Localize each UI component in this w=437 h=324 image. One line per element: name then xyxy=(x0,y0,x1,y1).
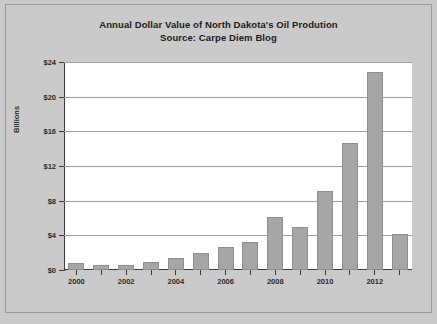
x-tick-label-2006: 2006 xyxy=(213,277,238,289)
x-tick-slot xyxy=(213,270,238,275)
x-tick-label-empty xyxy=(188,277,213,289)
x-tick-mark xyxy=(126,270,127,275)
x-tick-mark xyxy=(349,270,350,275)
bar-slot xyxy=(114,62,139,270)
bar-2000[interactable] xyxy=(68,263,84,270)
x-tick-slot xyxy=(313,270,338,275)
x-tick-label-empty xyxy=(89,277,114,289)
x-tick-label-empty xyxy=(288,277,313,289)
y-axis-ticks: $0$4$8$12$16$20$24 xyxy=(0,0,64,324)
bar-slot xyxy=(337,62,362,270)
x-tick-mark xyxy=(175,270,176,275)
bar-2004[interactable] xyxy=(168,258,184,270)
x-tick-mark xyxy=(76,270,77,275)
x-tick-slot xyxy=(139,270,164,275)
x-tick-mark xyxy=(101,270,102,275)
x-tick-label-2008: 2008 xyxy=(263,277,288,289)
bar-slot xyxy=(139,62,164,270)
x-tick-slot xyxy=(337,270,362,275)
x-tick-label-empty xyxy=(387,277,412,289)
x-tick-slot xyxy=(188,270,213,275)
x-tick-mark xyxy=(275,270,276,275)
x-tick-mark xyxy=(399,270,400,275)
x-tick-slot xyxy=(238,270,263,275)
bar-slot xyxy=(263,62,288,270)
bar-slot xyxy=(288,62,313,270)
x-tick-label-2012: 2012 xyxy=(362,277,387,289)
bar-slot xyxy=(362,62,387,270)
x-axis-tick-marks xyxy=(64,270,412,275)
bar-2009[interactable] xyxy=(292,227,308,270)
bar-slot xyxy=(313,62,338,270)
bar-slot xyxy=(163,62,188,270)
bar-2012[interactable] xyxy=(367,72,383,270)
x-tick-label-2010: 2010 xyxy=(313,277,338,289)
x-tick-mark xyxy=(151,270,152,275)
x-tick-slot xyxy=(64,270,89,275)
y-tick-label: $4 xyxy=(48,231,56,240)
bar-2006[interactable] xyxy=(218,247,234,270)
x-tick-slot xyxy=(362,270,387,275)
x-tick-mark xyxy=(374,270,375,275)
bar-2008[interactable] xyxy=(267,217,283,270)
x-tick-mark xyxy=(250,270,251,275)
x-tick-slot xyxy=(114,270,139,275)
x-tick-slot xyxy=(89,270,114,275)
bar-slot xyxy=(238,62,263,270)
chart-subtitle: Source: Carpe Diem Blog xyxy=(0,31,437,44)
x-tick-label-2004: 2004 xyxy=(163,277,188,289)
plot-area-wrapper xyxy=(64,62,412,270)
bar-series xyxy=(64,62,412,270)
bar-2003[interactable] xyxy=(143,262,159,270)
bar-slot xyxy=(64,62,89,270)
x-tick-slot xyxy=(387,270,412,275)
x-tick-slot xyxy=(163,270,188,275)
y-tick-label: $8 xyxy=(48,196,56,205)
y-tick-label: $24 xyxy=(43,58,56,67)
x-tick-slot xyxy=(288,270,313,275)
y-tick-label: $16 xyxy=(43,127,56,136)
bar-slot xyxy=(188,62,213,270)
page-title: Annual Dollar Value of North Dakota's Oi… xyxy=(0,18,437,31)
x-tick-mark xyxy=(200,270,201,275)
x-tick-mark xyxy=(325,270,326,275)
x-tick-slot xyxy=(263,270,288,275)
bar-2005[interactable] xyxy=(193,253,209,270)
x-tick-label-empty xyxy=(139,277,164,289)
y-tick-label: $12 xyxy=(43,162,56,171)
bar-slot xyxy=(89,62,114,270)
x-tick-label-empty xyxy=(238,277,263,289)
bar-2011[interactable] xyxy=(342,143,358,270)
chart-title-block: Annual Dollar Value of North Dakota's Oi… xyxy=(0,18,437,44)
bar-slot xyxy=(387,62,412,270)
x-axis-tick-labels: 2000200220042006200820102012 xyxy=(64,277,412,289)
bar-2013[interactable] xyxy=(392,234,408,270)
chart-figure: Annual Dollar Value of North Dakota's Oi… xyxy=(0,0,437,324)
bar-2010[interactable] xyxy=(317,191,333,270)
x-tick-label-empty xyxy=(337,277,362,289)
x-tick-mark xyxy=(300,270,301,275)
y-tick-label: $20 xyxy=(43,92,56,101)
bar-2007[interactable] xyxy=(242,242,258,270)
x-tick-mark xyxy=(225,270,226,275)
x-tick-label-2000: 2000 xyxy=(64,277,89,289)
x-tick-label-2002: 2002 xyxy=(114,277,139,289)
y-tick-label: $0 xyxy=(48,266,56,275)
bar-slot xyxy=(213,62,238,270)
